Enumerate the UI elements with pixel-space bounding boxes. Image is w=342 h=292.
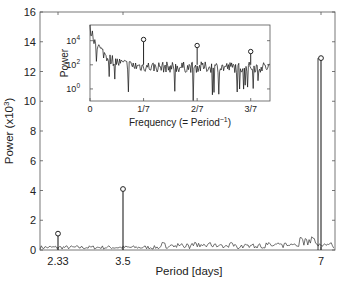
y-tick-label: 4 — [30, 185, 36, 197]
inset-y-tick-label: 104 — [66, 34, 80, 46]
peak-marker — [56, 231, 61, 236]
main-y-label: Power (x103) — [2, 98, 15, 165]
periodogram-figure: 0246810121416 2.333.57 Period [days] Pow… — [0, 0, 342, 292]
inset-x-tick-label: 1/7 — [137, 104, 150, 114]
y-tick-label: 2 — [30, 214, 36, 226]
y-tick-label: 0 — [30, 244, 36, 256]
inset-y-label: Power — [59, 48, 70, 77]
inset-peak-marker — [249, 49, 253, 53]
y-tick-label: 6 — [30, 155, 36, 167]
inset-x-tick-label: 0 — [87, 104, 92, 114]
inset-x-label: Frequency (= Period−1) — [129, 116, 231, 128]
inset-peak-marker — [195, 43, 199, 47]
y-tick-label: 10 — [24, 95, 36, 107]
y-tick-label: 8 — [30, 125, 36, 137]
inset-x-tick-label: 3/7 — [244, 104, 257, 114]
inset-y-tick-label: 100 — [66, 82, 80, 94]
inset-x-tick-label: 2/7 — [191, 104, 204, 114]
peak-marker — [121, 187, 126, 192]
peak-marker — [319, 56, 324, 61]
y-tick-label: 16 — [24, 6, 36, 18]
y-tick-label: 14 — [24, 36, 36, 48]
main-spectrum-line — [40, 237, 334, 250]
inset-axes-frame — [90, 25, 270, 101]
main-x-label: Period [days] — [155, 265, 222, 277]
inset-peak-marker — [141, 37, 145, 41]
x-tick-label: 3.5 — [115, 255, 130, 267]
x-tick-label: 7 — [318, 255, 324, 267]
y-tick-label: 12 — [24, 66, 36, 78]
x-tick-label: 2.33 — [47, 255, 68, 267]
